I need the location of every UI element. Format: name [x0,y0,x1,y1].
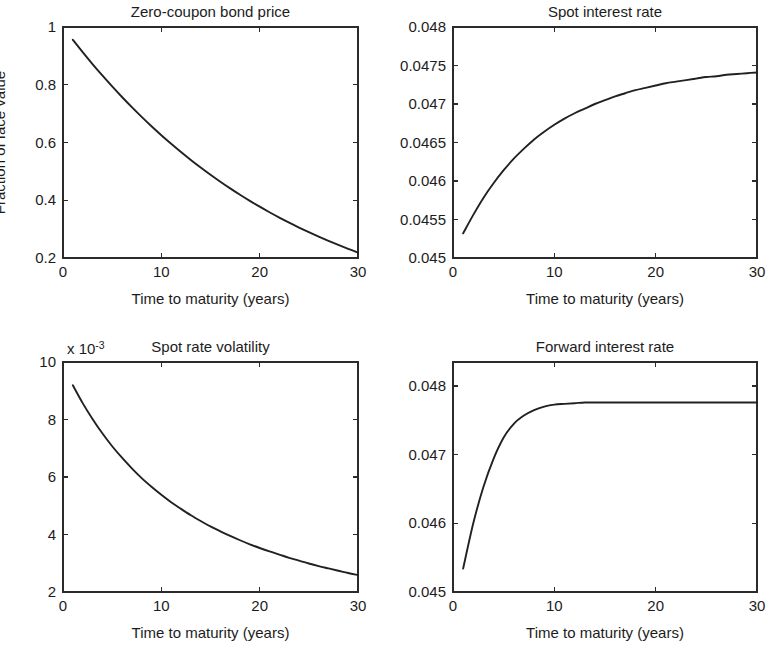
panel-title: Forward interest rate [536,338,674,355]
x-axis-label: Time to maturity (years) [526,624,684,641]
data-curve-forward-interest-rate [463,402,757,568]
y-tick-label: 0.047 [408,446,446,463]
x-tick-label: 30 [749,597,766,614]
plot-frame [453,362,757,592]
x-tick-label: 0 [449,597,457,614]
x-tick-label: 10 [546,597,563,614]
y-tick-label: 0.046 [408,514,446,531]
subplot-forward-interest-rate: 01020300.0450.0460.0470.048Forward inter… [0,0,774,648]
x-tick-label: 20 [647,597,664,614]
y-tick-label: 0.048 [408,377,446,394]
y-tick-label: 0.045 [408,583,446,600]
figure-canvas: 01020300.20.40.60.81Zero-coupon bond pri… [0,0,774,648]
